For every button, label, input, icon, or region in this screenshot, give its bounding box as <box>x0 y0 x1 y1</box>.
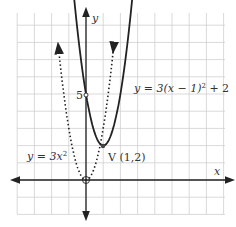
vertex-label: V (1,2) <box>107 151 146 164</box>
grid <box>17 13 225 214</box>
y-axis-label: y <box>91 12 99 25</box>
tick-five: 5 <box>76 89 83 102</box>
equation-base: y = 3x2 <box>26 150 67 163</box>
vertex-point <box>101 144 105 148</box>
point-five <box>84 93 88 97</box>
graph: y x 5 V (1,2) y = 3(x − 1)2 + 2 y = 3x2 <box>0 0 236 227</box>
equation-shifted: y = 3(x − 1)2 + 2 <box>133 82 229 95</box>
x-axis-label: x <box>214 165 221 178</box>
